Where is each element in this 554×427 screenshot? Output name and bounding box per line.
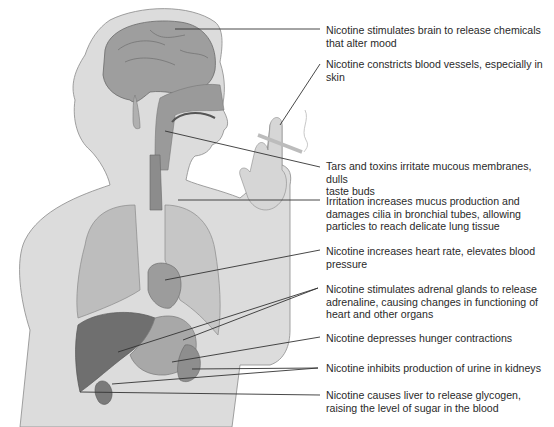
label-liver: Nicotine causes liver to release glycoge…: [326, 389, 554, 414]
label-mucous-membranes: Tars and toxins irritate mucous membrane…: [326, 160, 554, 198]
label-blood-vessels: Nicotine constricts blood vessels, espec…: [326, 58, 554, 83]
label-adrenal-glands: Nicotine stimulates adrenal glands to re…: [326, 283, 554, 321]
label-heart: Nicotine increases heart rate, elevates …: [326, 245, 554, 270]
label-stomach: Nicotine depresses hunger contractions: [326, 332, 554, 345]
nicotine-effects-diagram: Nicotine stimulates brain to release che…: [0, 0, 554, 427]
label-bronchial-tubes: Irritation increases mucus production an…: [326, 195, 554, 233]
label-kidneys: Nicotine inhibits production of urine in…: [326, 362, 554, 375]
label-brain: Nicotine stimulates brain to release che…: [326, 24, 554, 49]
